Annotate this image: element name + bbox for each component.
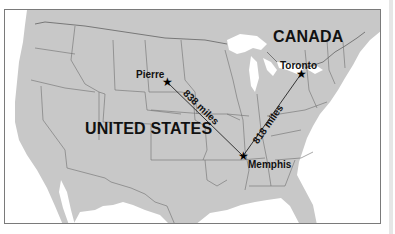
star-icon: ★ — [295, 68, 307, 80]
map-frame: CANADA UNITED STATES Pierre ★ Toronto ★ … — [4, 9, 381, 224]
city-label-memphis: Memphis — [248, 159, 291, 170]
country-label-canada: CANADA — [273, 28, 344, 46]
star-icon: ★ — [161, 76, 173, 88]
country-label-united-states: UNITED STATES — [85, 120, 212, 138]
scrollbar[interactable] — [389, 0, 393, 234]
